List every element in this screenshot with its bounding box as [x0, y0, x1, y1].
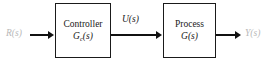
block-controller-title: Controller: [63, 19, 102, 30]
block-controller-tf-arg: (s): [83, 31, 93, 41]
block-process-transfer-function: G(s): [181, 31, 198, 42]
block-process: Process G(s): [163, 3, 216, 58]
block-process-title: Process: [175, 19, 204, 30]
block-controller-tf-subscript: c: [80, 35, 83, 42]
arrow-line: [111, 34, 157, 36]
signal-label-intermediate: U(s): [122, 14, 139, 24]
block-process-tf-arg: (s): [188, 31, 198, 41]
arrow-head: [48, 31, 54, 39]
signal-label-input: R(s): [6, 28, 22, 38]
block-controller-tf-base: G: [73, 31, 80, 41]
arrow-line: [216, 34, 236, 36]
arrow-head: [235, 31, 241, 39]
block-diagram: R(s) Controller Gc(s) U(s) Process G(s) …: [0, 0, 274, 65]
signal-label-output: Y(s): [245, 28, 260, 38]
block-controller: Controller Gc(s): [55, 3, 111, 58]
block-controller-transfer-function: Gc(s): [73, 31, 93, 42]
arrow-line: [30, 34, 49, 36]
block-process-tf-base: G: [181, 31, 188, 41]
arrow-head: [156, 31, 162, 39]
